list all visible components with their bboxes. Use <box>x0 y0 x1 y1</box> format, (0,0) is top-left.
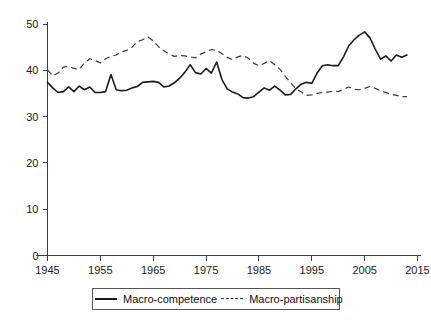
x-tick-group: 19451955196519751985199520052015 <box>35 256 429 276</box>
y-tick-label: 40 <box>26 64 38 76</box>
legend-entry-macro-partisanship: Macro-partisanship <box>219 293 345 305</box>
chart-figure: 01020304050 1945195519651975198519952005… <box>0 0 431 322</box>
x-axis: 19451955196519751985199520052015 <box>35 256 429 276</box>
x-tick-label: 2005 <box>352 264 376 276</box>
data-series-group <box>48 32 407 98</box>
x-tick-label: 1975 <box>194 264 218 276</box>
y-tick-label: 50 <box>26 18 38 30</box>
chart-legend: Macro-competence Macro-partisanship <box>92 288 340 310</box>
dashed-line-swatch <box>221 295 243 303</box>
legend-label-macro-partisanship: Macro-partisanship <box>249 293 343 305</box>
y-tick-group: 01020304050 <box>26 18 47 262</box>
y-tick-label: 20 <box>26 157 38 169</box>
legend-entry-macro-competence: Macro-competence <box>93 293 219 305</box>
x-tick-label: 1995 <box>300 264 324 276</box>
x-tick-label: 1985 <box>247 264 271 276</box>
x-tick-label: 1965 <box>141 264 165 276</box>
y-tick-label: 10 <box>26 203 38 215</box>
y-axis: 01020304050 <box>26 18 47 262</box>
x-tick-label: 2015 <box>405 264 429 276</box>
x-tick-label: 1945 <box>35 264 59 276</box>
x-tick-label: 1955 <box>88 264 112 276</box>
legend-label-macro-competence: Macro-competence <box>123 293 217 305</box>
line-chart-plot: 01020304050 1945195519651975198519952005… <box>0 0 431 322</box>
series-line-macro-competence <box>48 32 407 98</box>
y-tick-label: 30 <box>26 111 38 123</box>
solid-line-swatch <box>95 295 117 303</box>
